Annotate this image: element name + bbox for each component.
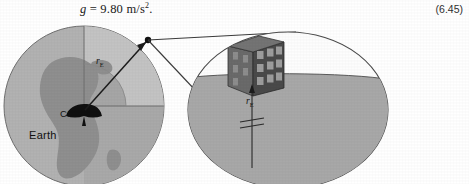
- figure-artwork: [0, 0, 469, 184]
- earth-radius-subscript: E: [100, 61, 104, 68]
- inset-magnified-view: [185, 32, 392, 184]
- earth-label: Earth: [29, 129, 57, 141]
- inset-ground: [185, 74, 392, 184]
- inset-radius-subscript: E: [250, 101, 254, 108]
- building-front-windows: [257, 47, 282, 86]
- inset-radius-label: rE: [246, 96, 254, 108]
- earth-radius-label: rE: [96, 56, 104, 68]
- gravity-earth-radius-figure: g = 9.80 m/s2. (6.45): [0, 0, 469, 184]
- earth-globe: [4, 26, 164, 184]
- center-of-mass-label: CM: [60, 108, 75, 119]
